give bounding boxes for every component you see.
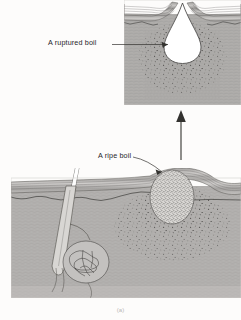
label-ripe-boil: A ripe boil: [98, 152, 131, 159]
ruptured-boil-inset: [124, 0, 241, 105]
figure-caption: (a): [0, 307, 241, 313]
coiled-sweat-gland: [63, 241, 109, 283]
label-ruptured-boil: A ruptured boil: [48, 39, 97, 46]
subcutaneous-layer: [11, 286, 241, 298]
boil-diagram-figure: A ruptured boil A ripe boil (a): [0, 0, 241, 320]
diagram-canvas: [0, 0, 241, 320]
